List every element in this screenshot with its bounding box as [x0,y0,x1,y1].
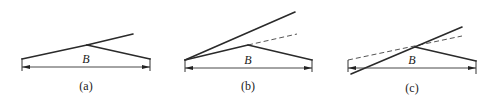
arrow-right-icon [468,66,476,70]
dashed-extension-line [248,34,297,45]
crossing-solid-line [351,27,462,74]
panel-a: B (a) [22,34,150,93]
arrow-right-icon [142,65,150,69]
left-rise-line [22,45,87,59]
panel-caption: (b) [241,79,255,93]
right-fall-line [415,47,476,61]
panel-caption: (c) [405,81,418,95]
dimension-label: B [82,52,90,66]
panel-b: B (b) [185,12,312,93]
dashed-reference-line [348,36,462,60]
panel-c: B (c) [348,27,476,95]
arrow-left-icon [348,66,356,70]
arrow-right-icon [304,66,312,70]
dimension-label: B [244,53,252,67]
right-fall-line [248,45,312,60]
upper-extension-line [87,34,133,45]
arrow-left-icon [22,65,30,69]
truss-diagram: B (a) B (b) B (c) [0,0,493,103]
right-fall-line [87,45,150,59]
arrow-left-icon [185,66,193,70]
left-rise-line [185,45,248,60]
panel-caption: (a) [79,79,92,93]
dimension-label: B [408,53,416,67]
